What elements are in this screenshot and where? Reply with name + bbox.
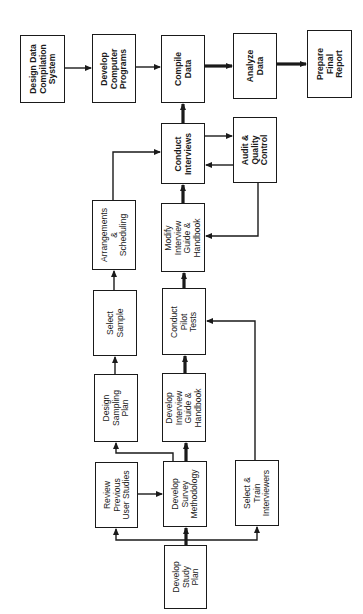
node-label: Develop Study Plan [171, 561, 200, 593]
node-label: Design Sampling Plan [102, 390, 131, 426]
node-label: Analyze Data [246, 50, 265, 82]
edge-study-plan-to-review [116, 529, 186, 540]
node-design-sampling-plan: Design Sampling Plan [94, 374, 138, 442]
node-label: Prepare Final Report [315, 48, 344, 80]
node-modify-interview-guide: Modify Interview Guide & Handbook [161, 203, 205, 272]
node-label: Develop Survey Methodology [171, 469, 200, 518]
node-label: Design Data Compilation System [28, 44, 57, 94]
node-conduct-interviews: Conduct Interviews [161, 123, 205, 184]
node-develop-computer-programs: Develop Computer Programs [92, 34, 136, 103]
node-label: Review Previous User Studies [102, 470, 131, 519]
node-label: Conduct Pilot Tests [170, 305, 199, 337]
node-select-sample: Select Sample [93, 290, 137, 356]
node-label: Conduct Interviews [174, 132, 193, 174]
node-select-train-interviewers: Select & Train Interviewers [235, 460, 279, 526]
node-label: Modify Interview Guide & Handbook [164, 218, 202, 257]
node-compile-data: Compile Data [161, 35, 205, 103]
node-audit-quality-control: Audit & Quality Control [233, 117, 277, 183]
flowchart-canvas: Design Data Compilation System Develop C… [0, 0, 363, 614]
node-label: Compile Data [174, 52, 193, 86]
edge-audit-to-modify [206, 183, 258, 236]
node-analyze-data: Analyze Data [233, 33, 277, 99]
node-label: Arrangements & Scheduling [100, 208, 129, 262]
node-prepare-final-report: Prepare Final Report [307, 30, 352, 98]
node-label: Select Sample [106, 308, 125, 337]
edge-select-train-to-pilot [207, 321, 255, 460]
node-conduct-pilot-tests: Conduct Pilot Tests [162, 288, 206, 355]
node-label: Audit & Quality Control [241, 135, 270, 166]
node-arrangements-scheduling: Arrangements & Scheduling [92, 200, 136, 270]
node-design-data-compilation-system: Design Data Compilation System [20, 35, 65, 103]
node-develop-interview-guide: Develop Interview Guide & Handbook [162, 373, 206, 442]
node-review-previous-user-studies: Review Previous User Studies [95, 462, 138, 528]
edge-methodology-to-sampling-plan [116, 443, 173, 461]
edge-study-plan-to-select-train [186, 527, 257, 540]
node-label: Select & Train Interviewers [243, 470, 272, 516]
node-develop-study-plan: Develop Study Plan [164, 545, 207, 609]
node-label: Develop Computer Programs [100, 48, 129, 89]
edge-arrangements-to-interviews [113, 152, 160, 200]
node-develop-survey-methodology: Develop Survey Methodology [163, 461, 207, 527]
node-label: Develop Interview Guide & Handbook [165, 388, 203, 427]
